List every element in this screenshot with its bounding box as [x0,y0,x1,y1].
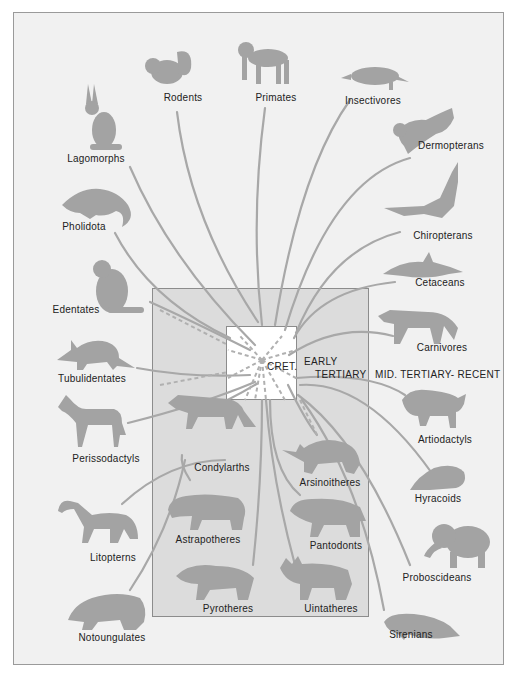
label-hyracoids: Hyracoids [415,493,461,504]
uintathere-silhouette [278,556,354,602]
label-carnivores: Carnivores [417,342,467,353]
label-artiodactyls: Artiodactyls [418,434,472,445]
era-cretaceous: CRET. [267,361,297,372]
era-early-tertiary-1: EARLY [304,356,338,367]
label-astrapotheres: Astrapotheres [176,534,241,545]
label-tubulidentates: Tubulidentates [58,373,126,384]
cetacean-silhouette [383,252,465,280]
astrapothere-silhouette [168,492,248,532]
pantodont-silhouette [290,497,368,539]
perissodactyl-silhouette [58,395,128,451]
condylarth-silhouette [168,395,256,431]
notoungulate-silhouette [68,590,150,634]
label-condylarths: Condylarths [194,462,250,473]
artiodactyl-silhouette [400,388,470,432]
label-litopterns: Litopterns [90,552,136,563]
rodent-silhouette [141,44,197,90]
label-rodents: Rodents [164,92,203,103]
label-pholidota: Pholidota [62,221,106,232]
pyrothere-silhouette [176,562,256,602]
lagomorph-silhouette [82,84,126,154]
label-lagomorphs: Lagomorphs [67,153,125,164]
label-edentates: Edentates [53,304,100,315]
label-dermopterans: Dermopterans [418,140,484,151]
tubulidentate-silhouette [57,336,137,372]
arsinoithere-silhouette [282,436,362,476]
hyracoid-silhouette [410,462,468,494]
label-pantodonts: Pantodonts [310,540,363,551]
carnivore-silhouette [378,306,462,346]
label-chiropterans: Chiropterans [413,230,473,241]
era-early-tertiary-2: TERTIARY [315,369,367,380]
label-notoungulates: Notoungulates [78,632,145,643]
litoptern-silhouette [58,495,142,547]
era-mid-tertiary-recent: MID. TERTIARY- RECENT [375,369,500,380]
insectivore-silhouette [337,62,411,94]
label-sirenians: Sirenians [389,629,433,640]
chiropteran-silhouette [384,162,466,224]
label-perissodactyls: Perissodactyls [72,453,139,464]
label-uintatheres: Uintatheres [304,603,357,614]
proboscidean-silhouette [420,520,494,570]
label-pyrotheres: Pyrotheres [203,603,253,614]
label-arsinoitheres: Arsinoitheres [300,477,361,488]
primate-silhouette [236,40,306,88]
label-insectivores: Insectivores [345,95,401,106]
label-primates: Primates [255,92,296,103]
label-proboscideans: Proboscideans [403,572,472,583]
label-cetaceans: Cetaceans [415,277,465,288]
